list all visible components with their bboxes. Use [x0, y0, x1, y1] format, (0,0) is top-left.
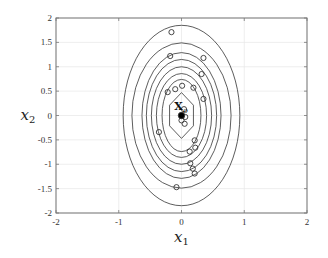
x-tick-label: 2: [305, 217, 310, 227]
x-tick-label: -2: [52, 217, 60, 227]
sample-point: [201, 96, 206, 101]
axis-ticks: -2-1012-2-1.5-1-0.500.511.52: [38, 13, 310, 227]
y-tick-label: 2: [48, 13, 53, 23]
sample-point: [182, 121, 187, 126]
contour-scatter-chart: -2-1012-2-1.5-1-0.500.511.52 Xo x1 x2: [0, 0, 328, 258]
x-tick-label: 0: [179, 217, 184, 227]
sample-point: [199, 71, 204, 76]
x0-label: Xo: [174, 100, 188, 115]
sample-point: [187, 149, 192, 154]
x0-annotation: Xo: [174, 100, 188, 115]
y-tick-label: 0: [48, 111, 53, 121]
y-tick-label: -1: [45, 159, 53, 169]
x-axis-label: x1: [174, 228, 189, 247]
y-tick-label: 1.5: [41, 37, 53, 47]
sample-point: [180, 83, 185, 88]
sample-point: [191, 85, 196, 90]
y-tick-label: -1.5: [38, 184, 53, 194]
sample-point: [169, 30, 174, 35]
y-tick-label: -2: [45, 208, 53, 218]
y-tick-label: 1: [48, 62, 53, 72]
sample-point: [201, 55, 206, 60]
x-tick-label: -1: [115, 217, 123, 227]
x-tick-label: 1: [242, 217, 247, 227]
y-tick-label: 0.5: [41, 86, 53, 96]
y-tick-label: -0.5: [38, 135, 53, 145]
y-axis-label: x2: [21, 106, 36, 125]
